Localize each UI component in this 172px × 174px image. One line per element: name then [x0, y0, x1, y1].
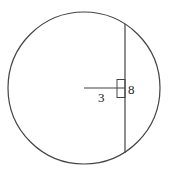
circle-diagram: 3 8	[0, 0, 172, 174]
half-chord-label: 8	[128, 82, 135, 97]
distance-label: 3	[98, 90, 105, 105]
